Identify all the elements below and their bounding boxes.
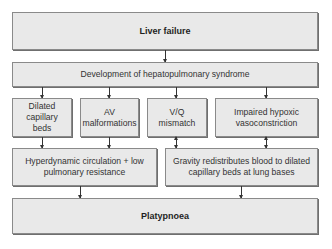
- node-label: Gravity redistributes blood to dilated c…: [172, 156, 311, 178]
- arrow-av-to-hyperdynamic: [109, 137, 110, 148]
- node-label: Impaired hypoxic vasoconstriction: [230, 107, 303, 129]
- arrow-liver-to-hps: [165, 50, 166, 62]
- node-label: V/Q mismatch: [158, 107, 196, 129]
- arrow-hyperdynamic-to-platypnoea: [80, 186, 81, 198]
- arrow-hps-to-av: [109, 87, 110, 98]
- node-dilated-capillary-beds: Dilated capillary beds: [12, 98, 72, 137]
- node-label: AV malformations: [83, 107, 137, 129]
- node-label: Development of hepatopulmonary syndrome: [80, 69, 249, 80]
- node-label: Platypnoea: [141, 211, 189, 222]
- node-hyperdynamic-circulation: Hyperdynamic circulation + low pulmonary…: [12, 148, 157, 186]
- arrow-hps-to-vq: [176, 87, 177, 98]
- arrow-vq-to-gravity: [176, 137, 177, 148]
- node-hps: Development of hepatopulmonary syndrome: [12, 62, 318, 87]
- node-av-malformations: AV malformations: [80, 98, 139, 137]
- node-vq-mismatch: V/Q mismatch: [147, 98, 207, 137]
- node-label: Liver failure: [139, 26, 190, 37]
- node-label: Hyperdynamic circulation + low pulmonary…: [25, 156, 144, 178]
- node-impaired-hypoxic-vasoconstriction: Impaired hypoxic vasoconstriction: [215, 98, 318, 137]
- arrow-hps-to-hypoxic: [266, 87, 267, 98]
- node-liver-failure: Liver failure: [12, 12, 318, 50]
- node-platypnoea: Platypnoea: [12, 198, 318, 234]
- arrow-dilated-to-hyperdynamic: [42, 137, 43, 148]
- arrow-hypoxic-to-gravity: [266, 137, 267, 148]
- node-gravity-redistributes: Gravity redistributes blood to dilated c…: [165, 148, 318, 186]
- arrow-hps-to-dilated: [42, 87, 43, 98]
- node-label: Dilated capillary beds: [19, 101, 65, 134]
- arrow-gravity-to-platypnoea: [241, 186, 242, 198]
